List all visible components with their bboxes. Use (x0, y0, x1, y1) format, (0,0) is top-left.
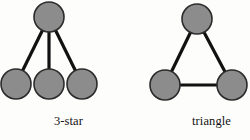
graph-node (150, 70, 180, 100)
figure-caption-triangle: triangle (125, 113, 250, 129)
figure-3-star: 3-star (0, 0, 125, 140)
figure-triangle: triangle (125, 0, 250, 140)
graph-diagram-3-star (0, 0, 125, 112)
graph-node (1, 69, 31, 99)
graph-node (182, 4, 212, 34)
graph-node (34, 69, 64, 99)
graph-node (34, 2, 64, 32)
graph-diagram-triangle (125, 0, 250, 112)
graph-node (67, 69, 97, 99)
figure-caption-3-star: 3-star (0, 113, 131, 129)
graph-motif-figure: 3-star triangle (0, 0, 250, 140)
graph-node (217, 70, 247, 100)
